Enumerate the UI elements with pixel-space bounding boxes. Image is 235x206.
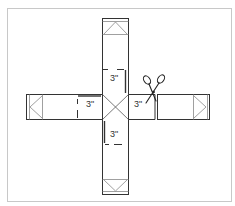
center-square-x: [103, 95, 129, 120]
right-flap: [194, 95, 208, 120]
left-flap: [30, 95, 43, 120]
scissors-icon: [142, 74, 166, 103]
top-flap: [103, 22, 129, 35]
label-left-measure: 3": [86, 99, 94, 109]
label-bottom-measure: 3": [110, 129, 118, 139]
label-right-measure: 3": [134, 99, 142, 109]
bottom-flap: [103, 180, 129, 192]
label-top-measure: 3": [110, 73, 118, 83]
box-template-diagram: 3" 3" 3" 3": [0, 0, 235, 206]
